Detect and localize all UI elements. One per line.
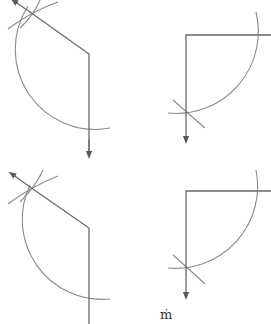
large-arc	[15, 6, 110, 129]
panel-bottom-left	[8, 170, 110, 324]
panel-top-right	[168, 12, 271, 140]
construction-diagram	[0, 0, 271, 324]
small-arc-2	[20, 170, 43, 202]
path-line	[186, 191, 271, 268]
small-arc-1	[8, 2, 58, 29]
quarter-arc	[168, 12, 258, 113]
quarter-arc	[168, 170, 258, 268]
path-line	[186, 35, 271, 113]
cross-arc	[173, 100, 205, 128]
panel-bottom-right	[168, 170, 271, 296]
path-line	[30, 187, 89, 324]
panel-top-left	[8, 0, 110, 155]
bottom-label: ṁ	[160, 308, 172, 321]
small-arc-1	[8, 176, 58, 204]
large-arc	[22, 185, 110, 299]
arrow-up-left	[12, 174, 30, 187]
cross-arc	[173, 255, 205, 284]
path-line	[30, 12, 89, 153]
